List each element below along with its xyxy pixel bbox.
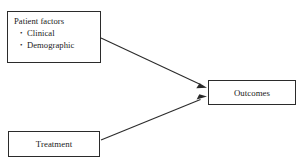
- edge-patient-factors-to-outcomes: [101, 38, 207, 88]
- node-patient-factors-heading: Patient factors: [14, 16, 100, 27]
- edge-treatment-to-outcomes: [101, 94, 207, 140]
- arrowhead-icon-patient-factors: [196, 83, 207, 88]
- node-patient-factors[interactable]: Patient factors Clinical Demographic: [7, 11, 101, 63]
- diagram-canvas: Patient factors Clinical Demographic Tre…: [0, 0, 301, 161]
- bullet-item-clinical: Clinical: [27, 27, 100, 39]
- node-outcomes-label: Outcomes: [209, 81, 295, 104]
- node-treatment-label: Treatment: [9, 132, 99, 156]
- arrowhead-icon-treatment: [197, 94, 207, 99]
- bullet-item-demographic: Demographic: [27, 39, 100, 51]
- edge-line-treatment: [101, 100, 201, 141]
- node-treatment[interactable]: Treatment: [8, 131, 100, 157]
- patient-factors-bullet-list: Clinical Demographic: [14, 27, 100, 51]
- node-outcomes[interactable]: Outcomes: [208, 80, 296, 105]
- edge-line-patient-factors: [101, 38, 201, 85]
